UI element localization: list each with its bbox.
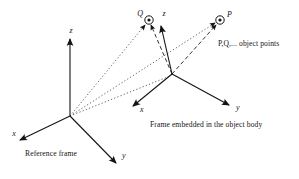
frames-diagram: z x y Reference frame z x y Frame embedd… xyxy=(0,0,299,179)
object-frame-caption: Frame embedded in the object body xyxy=(150,120,262,129)
object-frame-x-label: x xyxy=(139,105,144,114)
reference-frame-z-label: z xyxy=(68,26,73,35)
reference-frame-y-label: y xyxy=(121,151,126,160)
point-q-dot xyxy=(147,18,150,21)
object-frame-y-axis xyxy=(172,74,229,105)
point-q-marker: Q xyxy=(137,9,153,24)
sightline-reference-to-point-q xyxy=(70,25,145,116)
object-frame-z-label: z xyxy=(161,9,166,18)
reference-frame-caption: Reference frame xyxy=(25,149,77,158)
sightline-reference-to-object-origin xyxy=(70,76,170,116)
object-frame-z-axis xyxy=(161,26,172,74)
reference-frame-x-label: x xyxy=(11,129,16,138)
object-frame: z x y Frame embedded in the object body xyxy=(133,9,262,129)
reference-frame: z x y Reference frame xyxy=(11,26,126,163)
object-points-note: P,Q,... object points xyxy=(218,39,279,48)
point-p-marker: P xyxy=(216,10,232,24)
sightline-reference-to-point-p xyxy=(70,23,215,116)
vector-object-to-point-p xyxy=(172,25,216,74)
vector-object-to-point-q xyxy=(151,25,172,74)
object-frame-x-axis xyxy=(133,74,172,106)
figure-canvas: z x y Reference frame z x y Frame embedd… xyxy=(0,0,299,179)
reference-frame-x-axis xyxy=(20,116,70,140)
reference-frame-y-axis xyxy=(70,116,116,163)
point-q-label: Q xyxy=(137,9,143,18)
object-frame-y-label: y xyxy=(235,103,240,112)
point-p-dot xyxy=(218,18,221,21)
point-p-label: P xyxy=(226,10,232,19)
